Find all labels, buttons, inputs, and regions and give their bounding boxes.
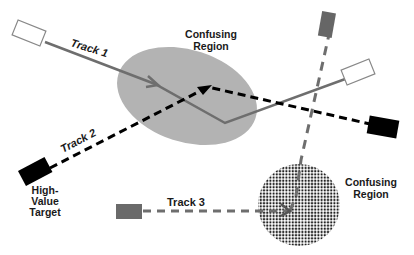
region-1-label-line1: Confusing <box>185 28 237 40</box>
region-2-label-line2: Region <box>353 188 389 200</box>
region-2-label-line1: Confusing <box>345 176 397 188</box>
track-2-label: Track 2 <box>58 126 97 155</box>
track-1-start-box <box>12 20 46 46</box>
tracking-diagram: Track 1 Track 2 Track 3 Confusing Region… <box>0 0 414 255</box>
track-3-start-box <box>116 204 142 219</box>
track-1-end-box <box>341 59 375 85</box>
target-label-line3: Target <box>29 206 61 218</box>
track-2-start-box <box>18 157 52 186</box>
track-1-label: Track 1 <box>69 36 109 59</box>
track-3-end-box <box>318 11 336 38</box>
track-2-end-box <box>367 116 400 139</box>
track-3-label: Track 3 <box>167 196 205 208</box>
region-1-label-line2: Region <box>193 40 229 52</box>
